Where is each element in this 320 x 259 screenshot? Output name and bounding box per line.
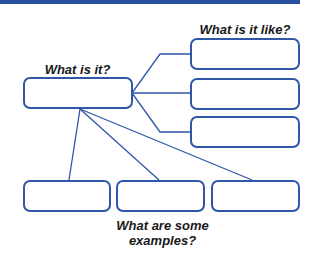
example-box-1[interactable]: [23, 180, 111, 212]
center-concept-box[interactable]: [23, 77, 133, 109]
attributes-question-label: What is it like?: [190, 22, 300, 37]
examples-question-line2: examples?: [100, 233, 225, 248]
example-box-3[interactable]: [211, 180, 300, 212]
examples-question-line1: What are some: [100, 218, 225, 233]
center-question-label: What is it?: [23, 62, 132, 77]
attribute-box-1[interactable]: [190, 38, 300, 70]
examples-question-label: What are some examples?: [100, 218, 225, 248]
example-box-2[interactable]: [116, 180, 205, 212]
attribute-box-2[interactable]: [190, 78, 300, 110]
attribute-box-3[interactable]: [190, 116, 300, 148]
